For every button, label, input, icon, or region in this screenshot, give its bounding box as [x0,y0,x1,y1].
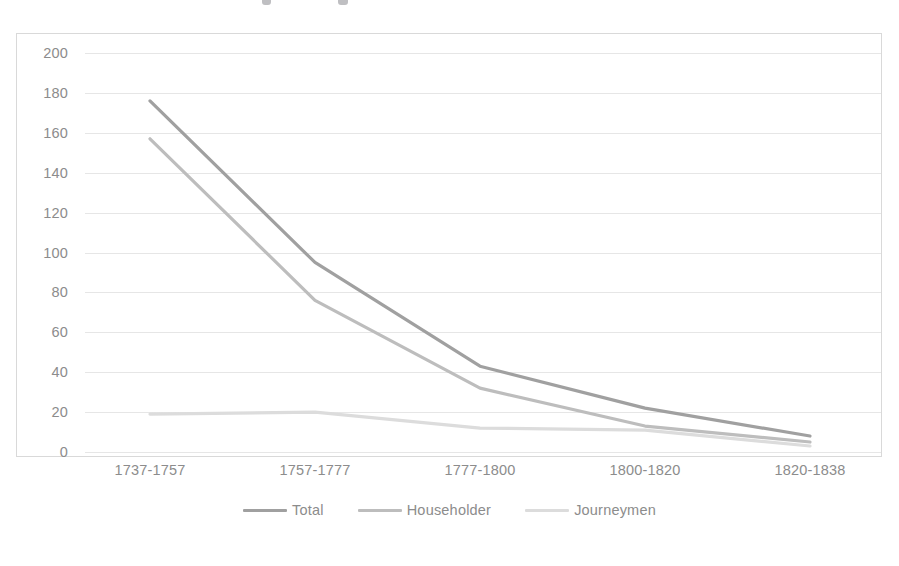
y-axis-tick-label: 80 [51,284,68,300]
legend-line-swatch-icon [243,509,287,512]
y-axis-tick-label: 60 [51,324,68,340]
legend-line-swatch-icon [358,509,402,512]
legend-label: Total [292,502,324,518]
x-axis-tick-label: 1737-1757 [114,462,185,478]
gridlines [17,34,881,456]
x-axis-tick-label: 1820-1838 [774,462,845,478]
gridline [85,253,881,254]
plot-area [16,33,882,457]
legend-entry[interactable]: Total [243,502,324,518]
y-axis-tick-label: 200 [43,45,68,61]
cropped-title-artifact [262,0,271,5]
y-axis-tick-label: 40 [51,364,68,380]
y-axis-tick-label: 20 [51,404,68,420]
legend-line-swatch-icon [525,509,569,512]
x-axis-tick-label: 1800-1820 [609,462,680,478]
x-axis-tick-label: 1757-1777 [279,462,350,478]
legend-entry[interactable]: Journeymen [525,502,656,518]
line-chart: 200180160140120100806040200 1737-1757175… [0,0,899,566]
gridline [85,213,881,214]
legend-label: Journeymen [574,502,656,518]
gridline [85,93,881,94]
gridline [85,412,881,413]
y-axis-tick-label: 160 [43,125,68,141]
gridline [85,173,881,174]
gridline [85,53,881,54]
gridline [85,452,881,453]
gridline [85,372,881,373]
y-axis-tick-label: 180 [43,85,68,101]
y-axis-tick-label: 100 [43,245,68,261]
y-axis-tick-label: 140 [43,165,68,181]
y-axis-tick-label: 120 [43,205,68,221]
legend-entry[interactable]: Householder [358,502,491,518]
gridline [85,332,881,333]
x-axis-tick-label: 1777-1800 [444,462,515,478]
cropped-title-artifact [338,0,348,5]
y-axis: 200180160140120100806040200 [16,33,76,457]
legend-label: Householder [407,502,491,518]
y-axis-tick-label: 0 [60,444,68,460]
x-axis: 1737-17571757-17771777-18001800-18201820… [16,462,882,488]
chart-legend: TotalHouseholderJourneymen [0,497,899,523]
gridline [85,133,881,134]
gridline [85,292,881,293]
